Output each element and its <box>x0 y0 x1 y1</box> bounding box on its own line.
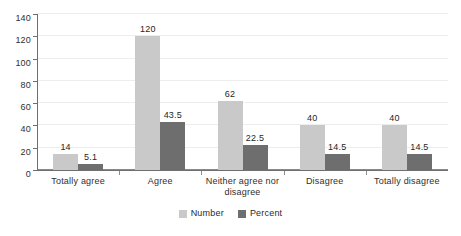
y-axis-tick <box>33 81 37 82</box>
bar-percent: 14.5 <box>407 154 432 170</box>
bar-value-label: 62 <box>225 90 235 99</box>
plot-area: 145.112043.56222.54014.54014.5 <box>37 14 448 170</box>
bar-value-label: 120 <box>140 25 156 34</box>
legend-label: Percent <box>250 209 282 218</box>
y-axis-tick <box>33 36 37 37</box>
x-axis-tick <box>201 171 202 175</box>
x-axis-category-label: Neither agree nor disagree <box>201 176 283 198</box>
bar-value-label: 40 <box>307 114 317 123</box>
bar-value-label: 14.5 <box>410 143 428 152</box>
x-axis-tick <box>284 171 285 175</box>
bar-number: 14 <box>53 154 78 170</box>
bar-number: 62 <box>218 101 243 170</box>
y-axis-tick <box>33 14 37 15</box>
bar-number: 120 <box>135 36 160 170</box>
bar-group: 145.1 <box>53 14 103 170</box>
bar-value-label: 43.5 <box>164 111 182 120</box>
bar-group: 6222.5 <box>218 14 268 170</box>
bar-percent: 22.5 <box>243 145 268 170</box>
x-axis-line <box>37 170 448 171</box>
bar-value-label: 5.1 <box>84 153 97 162</box>
bar-group: 12043.5 <box>135 14 185 170</box>
x-axis-tick <box>366 171 367 175</box>
bar-value-label: 40 <box>389 114 399 123</box>
bar-value-label: 14.5 <box>328 143 346 152</box>
bar-value-label: 22.5 <box>246 134 264 143</box>
bar-chart: 145.112043.56222.54014.54014.5 020406080… <box>0 0 461 236</box>
x-axis-tick <box>119 171 120 175</box>
y-axis-line <box>37 14 38 171</box>
y-axis-tick <box>33 125 37 126</box>
y-axis-tick <box>33 59 37 60</box>
bar-percent: 43.5 <box>160 122 185 170</box>
x-axis-category-label: Agree <box>119 176 201 187</box>
legend-label: Number <box>191 209 224 218</box>
chart-legend: NumberPercent <box>0 209 461 218</box>
y-axis-tick <box>33 103 37 104</box>
legend-swatch-number <box>179 210 187 218</box>
bar-group: 4014.5 <box>300 14 350 170</box>
bar-group: 4014.5 <box>382 14 432 170</box>
bar-percent: 14.5 <box>325 154 350 170</box>
legend-swatch-percent <box>238 210 246 218</box>
bar-number: 40 <box>382 125 407 170</box>
x-axis-category-label: Disagree <box>284 176 366 187</box>
legend-item[interactable]: Number <box>179 209 224 218</box>
legend-item[interactable]: Percent <box>238 209 282 218</box>
x-axis-category-label: Totally disagree <box>366 176 448 187</box>
bar-number: 40 <box>300 125 325 170</box>
y-axis-tick <box>33 148 37 149</box>
bar-value-label: 14 <box>60 143 70 152</box>
x-axis-category-label: Totally agree <box>37 176 119 187</box>
